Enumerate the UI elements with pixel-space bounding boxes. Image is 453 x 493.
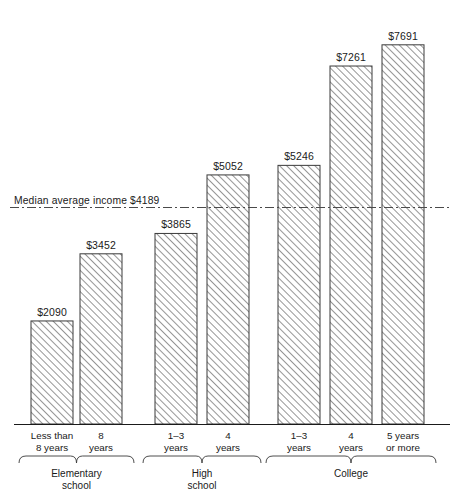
x-tick-label: 4years [194,430,262,453]
bar-value-label: $3452 [71,240,131,251]
bar [80,254,122,424]
x-tick-label-line1: 5 years [369,430,437,442]
bar-value-label: $7691 [373,31,433,42]
bar-value-label: $3865 [146,219,206,230]
x-tick-label: 8years [67,430,135,453]
group-label: Elementaryschool [7,468,147,492]
group-braces [19,456,436,463]
group-brace [143,456,261,463]
bar-value-label: $7261 [321,52,381,63]
bar-chart: $2090$3452$3865$5052$5246$7261$7691 Less… [0,0,453,493]
x-tick-label-line2: years [194,442,262,454]
bar [382,45,424,424]
x-tick-label: 5 yearsor more [369,430,437,453]
x-tick-label-line2: or more [369,442,437,454]
group-label-line1: Elementary [7,468,147,480]
bar-value-label: $5052 [198,161,258,172]
median-line-label: Median average income $4189 [14,195,159,206]
bars-group [31,45,424,424]
bar-value-label: $5246 [269,151,329,162]
x-tick-label-line2: years [67,442,135,454]
group-label-line1: High [132,468,272,480]
x-tick-label-line1: 8 [67,430,135,442]
bar [330,66,372,424]
bar [278,165,320,424]
group-label-line1: College [281,468,421,480]
bar-value-label: $2090 [22,307,82,318]
x-tick-label-line1: 4 [194,430,262,442]
group-brace [19,456,134,463]
bar [155,233,197,424]
group-label-line2: school [7,480,147,492]
chart-canvas [0,0,453,493]
group-label: Highschool [132,468,272,492]
group-label-line2: school [132,480,272,492]
group-brace [266,456,436,463]
group-label: College [281,468,421,480]
bar [207,175,249,424]
bar [31,321,73,424]
